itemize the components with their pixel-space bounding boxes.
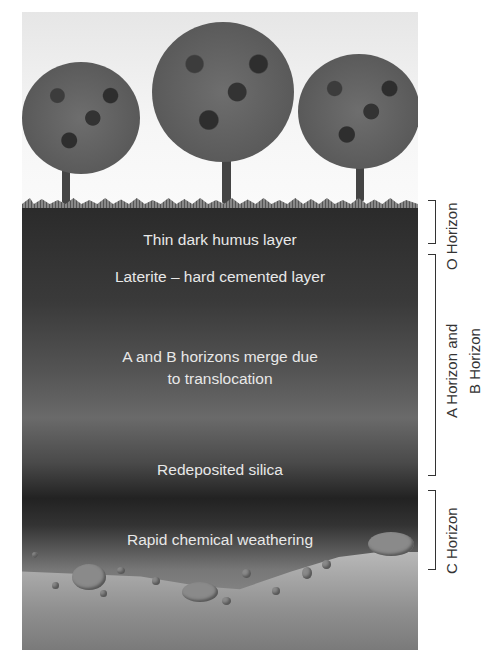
label-laterite: Laterite – hard cemented layer (22, 267, 418, 287)
rock (222, 597, 231, 605)
rock (322, 560, 331, 569)
bracket-ab-horizon (428, 254, 436, 476)
bracket-c-horizon (428, 490, 436, 570)
label-merge-line1: A and B horizons merge due (22, 347, 418, 367)
rock (272, 587, 280, 595)
tree-center (152, 22, 302, 212)
rock (52, 582, 59, 589)
label-merge-line2: to translocation (22, 369, 418, 389)
o-horizon-label: O Horizon (443, 202, 460, 270)
rock (152, 577, 160, 585)
rock (302, 567, 312, 579)
ab-horizon-label-line2: B Horizon (466, 328, 483, 394)
ab-horizon-label-line1: A Horizon and (443, 324, 460, 418)
label-weathering: Rapid chemical weathering (22, 530, 418, 550)
tree-right (298, 54, 418, 214)
rock (72, 564, 106, 590)
rock (242, 569, 251, 578)
tree-left (22, 62, 142, 212)
rock (100, 590, 107, 597)
rock (182, 582, 218, 602)
label-humus: Thin dark humus layer (22, 230, 418, 250)
bracket-o-horizon (428, 200, 436, 244)
c-horizon-label: C Horizon (443, 507, 460, 574)
label-silica: Redeposited silica (22, 460, 418, 480)
rock (117, 567, 125, 574)
soil-profile-illustration: Thin dark humus layer Laterite – hard ce… (22, 12, 418, 650)
rock (32, 552, 38, 558)
